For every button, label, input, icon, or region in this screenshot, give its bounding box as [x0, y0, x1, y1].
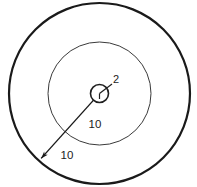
diagram-canvas: 2 10 10 — [0, 0, 197, 187]
dimension-label-outer-annulus: 10 — [61, 149, 74, 161]
concentric-circles-figure: 2 10 10 — [0, 0, 197, 187]
dimension-label-middle-annulus: 10 — [89, 118, 102, 130]
dimension-label-inner-radius: 2 — [113, 73, 119, 85]
